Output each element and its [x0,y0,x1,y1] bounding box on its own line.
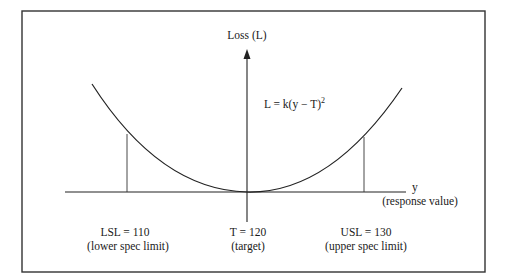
loss-axis-label: Loss (L) [227,29,266,42]
target-desc-label: (target) [231,240,265,253]
lsl-desc-label: (lower spec limit) [87,240,169,253]
usl-desc-label: (upper spec limit) [325,240,407,253]
target-value-label: T = 120 [230,226,267,238]
loss-formula: L = k(y − T)2 [264,96,325,111]
response-axis-label: y [412,181,418,194]
arrow-up-icon [244,49,251,59]
usl-value-label: USL = 130 [341,226,392,238]
loss-function-diagram: Loss (L) y (response value) L = k(y − T)… [0,0,509,279]
lsl-value-label: LSL = 110 [100,226,149,238]
response-axis-sublabel: (response value) [382,195,458,208]
